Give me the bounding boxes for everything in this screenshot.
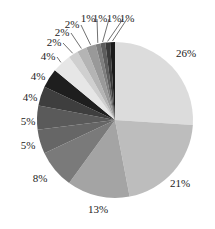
leader-line [57, 57, 61, 62]
slice-label: 13% [88, 203, 108, 215]
slice-label: 2% [65, 18, 80, 30]
slice-label: 21% [170, 177, 190, 189]
leader-line [81, 25, 91, 45]
slice-label: 1% [93, 12, 108, 24]
slice-label: 8% [33, 172, 48, 184]
slice-label: 4% [41, 50, 56, 62]
slice-label: 5% [21, 139, 36, 151]
pie-chart: 26%21%13%8%5%5%4%4%4%2%2%2%1%1%1%1% [0, 0, 215, 229]
pie-slices [37, 42, 193, 198]
slice-label: 4% [23, 91, 38, 103]
leader-line [63, 43, 73, 53]
leader-line [71, 33, 81, 49]
slice-label: 5% [21, 115, 36, 127]
slice-label: 1% [120, 12, 135, 24]
slice-label: 4% [31, 70, 46, 82]
slice-label: 26% [176, 47, 196, 59]
